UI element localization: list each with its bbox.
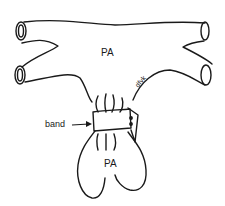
pulmonary-artery-drawing (0, 0, 225, 206)
pa-top-outline (24, 21, 205, 25)
right-lower-lumen (201, 65, 211, 85)
right-branch-notch (183, 41, 212, 64)
right-upper-lumen (201, 22, 209, 40)
lower-pa-left-lobe (78, 131, 105, 198)
right-lower-outline (133, 70, 205, 100)
left-branch-notch (22, 40, 58, 67)
pa-top-label: PA (101, 47, 114, 58)
band-label: band (45, 119, 65, 129)
lower-pa-right-lobe (115, 132, 146, 190)
pa-bottom-label: PA (104, 158, 117, 169)
left-lower-outline (25, 75, 92, 102)
